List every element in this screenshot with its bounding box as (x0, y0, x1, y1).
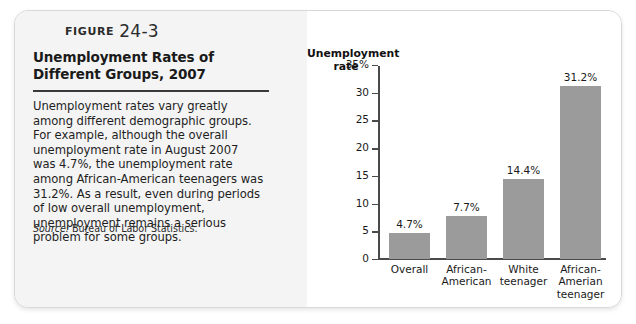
category-label-line: Amerian (551, 275, 610, 287)
y-axis-tick-label: 15 (316, 169, 378, 181)
bar (389, 233, 430, 259)
bar-value-label: 7.7% (437, 201, 496, 213)
category-label-line: African- (437, 263, 496, 275)
title-divider (33, 90, 269, 92)
figure-label: Figure24-3 (65, 21, 159, 41)
category-label: Overall (380, 263, 439, 275)
category-label-line: American (437, 275, 496, 287)
figure-label-word: Figure (65, 25, 114, 38)
y-axis-tick-label: 30 (316, 86, 378, 98)
source-text: Bureau of Labor Statistics. (72, 223, 197, 234)
bar-chart-plot: 35%302520151050 4.7%7.7%14.4%31.2% Overa… (307, 11, 622, 308)
bar (560, 86, 601, 259)
y-axis-tick-label: 10 (316, 197, 378, 209)
category-label-line: teenager (551, 288, 610, 300)
figure-card: Figure24-3 Unemployment Rates of Differe… (14, 10, 622, 308)
y-axis-tick-label: 0 (316, 252, 378, 264)
category-label-line: White (494, 263, 553, 275)
category-label: African-Amerianteenager (551, 263, 610, 300)
figure-title: Unemployment Rates of Different Groups, … (33, 49, 283, 83)
figure-number: 24-3 (119, 21, 159, 41)
bar (446, 216, 487, 259)
bar-value-label: 4.7% (380, 218, 439, 230)
bar-value-label: 31.2% (551, 71, 610, 83)
source-label: Source: (33, 223, 69, 234)
y-axis-line (378, 66, 380, 260)
category-label-line: Overall (380, 263, 439, 275)
y-axis-tick-label: 35% (316, 58, 378, 70)
chart-panel: Unemployment rate 35%302520151050 4.7%7.… (307, 11, 622, 307)
y-axis-tick-label: 5 (316, 224, 378, 236)
bar-value-label: 14.4% (494, 164, 553, 176)
category-label-line: African- (551, 263, 610, 275)
figure-text-column: Figure24-3 Unemployment Rates of Differe… (15, 11, 307, 307)
figure-source: Source: Bureau of Labor Statistics. (33, 223, 283, 234)
bar (503, 179, 544, 259)
y-axis-tick-label: 20 (316, 141, 378, 153)
category-label: Whiteteenager (494, 263, 553, 288)
y-axis-tick-label: 25 (316, 113, 378, 125)
category-label-line: teenager (494, 275, 553, 287)
category-label: African-American (437, 263, 496, 288)
